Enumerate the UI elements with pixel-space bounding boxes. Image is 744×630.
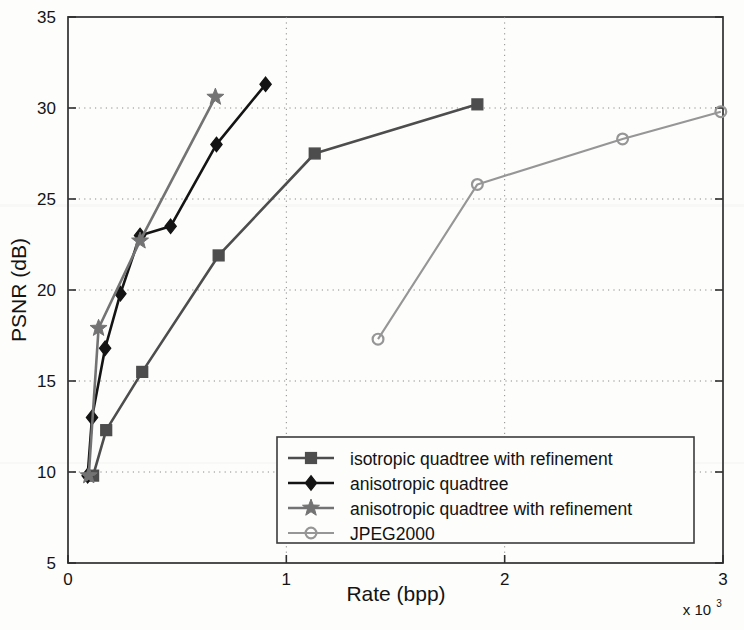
series-3 (373, 106, 727, 344)
data-point-diamond (99, 341, 110, 356)
x-axis-multiplier: x 10 3 (683, 598, 722, 618)
x-tick-label: 0 (63, 570, 72, 589)
data-point-square (306, 453, 317, 464)
x-tick-label: 3 (718, 570, 727, 589)
y-tick-label: 35 (37, 8, 56, 27)
figure-canvas: 51015202530350123 Rate (bpp) PSNR (dB) x… (0, 0, 744, 630)
series-0 (88, 99, 483, 481)
y-tick-label: 10 (37, 463, 56, 482)
rate-distortion-chart: 51015202530350123 Rate (bpp) PSNR (dB) x… (0, 0, 744, 630)
data-point-square (213, 250, 224, 261)
legend-label: JPEG2000 (350, 524, 435, 544)
legend-label: anisotropic quadtree (350, 474, 509, 494)
legend-label: isotropic quadtree with refinement (350, 449, 613, 469)
data-point-square (309, 148, 320, 159)
svg-text:x 10: x 10 (683, 601, 711, 618)
data-point-square (137, 367, 148, 378)
y-tick-label: 15 (37, 372, 56, 391)
series-2 (80, 88, 224, 483)
chart-legend[interactable]: isotropic quadtree with refinementanisot… (277, 437, 694, 544)
data-series-layer (80, 77, 726, 483)
y-axis-title: PSNR (dB) (7, 238, 30, 342)
svg-text:3: 3 (716, 598, 722, 609)
series-line (89, 97, 216, 476)
x-axis-title: Rate (bpp) (346, 582, 445, 605)
y-tick-label: 20 (37, 281, 56, 300)
x-tick-label: 1 (282, 570, 291, 589)
data-point-square (472, 99, 483, 110)
y-tick-label: 25 (37, 190, 56, 209)
y-tick-label: 5 (47, 554, 56, 573)
legend-label: anisotropic quadtree with refinement (350, 499, 632, 519)
series-line (378, 112, 721, 340)
data-point-square (101, 425, 112, 436)
data-point-star (207, 88, 224, 104)
y-tick-label: 30 (37, 99, 56, 118)
x-tick-label: 2 (500, 570, 509, 589)
